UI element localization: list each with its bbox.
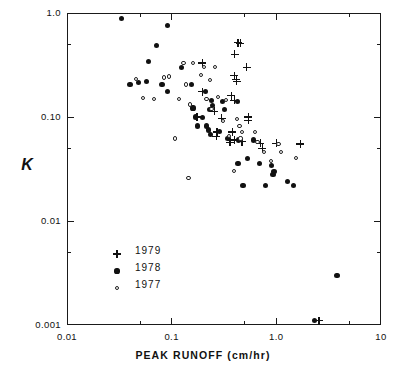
data-point-1978 [312,318,317,323]
data-point-1977 [253,130,257,134]
legend-label: 1979 [135,245,161,256]
y-tick-label: 0.10 [11,111,61,122]
data-point-1977 [221,119,225,123]
x-tick-label: 10 [356,331,406,342]
y-axis-tick [377,252,381,253]
data-point-1979 [244,116,252,124]
x-axis-tick [276,13,277,20]
y-axis-tick [67,221,74,222]
plus-marker [112,249,122,259]
data-point-1978 [144,79,149,84]
y-axis-tick [67,148,71,149]
data-point-1978 [270,172,275,177]
y-tick-label: 0.01 [11,215,61,226]
data-point-1978 [193,114,198,119]
data-point-1977 [181,61,185,65]
data-point-1978 [240,183,245,188]
legend-label: 1977 [135,279,161,290]
x-axis-title: PEAK RUNOFF (cm/hr) [0,349,406,361]
x-axis-tick [244,13,245,17]
y-axis-tick [374,117,381,118]
legend-label: 1978 [135,262,161,273]
data-point-1978 [159,82,164,87]
y-axis-title: K [14,156,40,174]
data-point-1979 [243,63,251,71]
data-point-1978 [257,161,262,166]
data-point-1977 [227,134,231,138]
figure-scatter-plot: 0.010.11.0101.00.100.010.001 PEAK RUNOFF… [0,0,406,371]
open-circle-marker [112,283,122,293]
y-axis-tick [67,252,71,253]
x-axis-tick [171,13,172,20]
plot-area [67,13,381,325]
y-axis-tick [67,117,74,118]
data-point-1978 [245,156,250,161]
y-tick-label: 1.0 [11,7,61,18]
x-axis-tick [244,321,245,325]
data-point-1979 [231,50,239,58]
data-point-1977 [173,136,177,140]
y-axis-tick [377,44,381,45]
x-axis-tick [140,13,141,17]
data-point-1978 [235,161,240,166]
data-point-1979 [236,39,244,47]
data-point-1979 [296,140,304,148]
plus-marker-glyph [113,250,121,258]
x-axis-tick [349,13,350,17]
data-point-1977 [188,102,192,106]
data-point-1978 [127,82,132,87]
x-axis-tick [140,321,141,325]
x-tick-label: 0.01 [42,331,92,342]
y-axis-tick [377,148,381,149]
data-point-1978 [208,132,213,137]
data-point-1977 [216,95,220,99]
data-point-1977 [177,97,181,101]
data-point-1977 [152,97,156,101]
filled-circle-marker-glyph [114,268,119,273]
data-point-1979 [233,77,241,85]
data-point-1977 [199,73,203,77]
data-point-1977 [237,124,241,128]
x-tick-label: 1.0 [251,331,301,342]
x-axis-tick [171,318,172,325]
y-axis-tick [374,221,381,222]
data-point-1977 [204,97,208,101]
data-point-1977 [186,176,190,180]
data-point-1977 [162,75,166,79]
x-tick-label: 0.1 [147,331,197,342]
data-point-1977 [269,159,273,163]
data-point-1977 [238,136,242,140]
data-point-1977 [276,142,280,146]
data-point-1977 [209,107,213,111]
y-tick-label: 0.001 [11,319,61,330]
data-point-1977 [255,140,259,144]
y-axis-tick [67,44,71,45]
data-point-1978 [189,82,194,87]
x-axis-tick [276,318,277,325]
open-circle-marker-glyph [115,286,119,290]
filled-circle-marker [112,266,122,276]
data-point-1977 [240,130,244,134]
data-point-1977 [141,96,145,100]
data-point-1977 [262,150,266,154]
data-point-1978 [291,183,296,188]
data-point-1978 [195,123,200,128]
data-point-1978 [334,273,339,278]
x-axis-tick [349,321,350,325]
